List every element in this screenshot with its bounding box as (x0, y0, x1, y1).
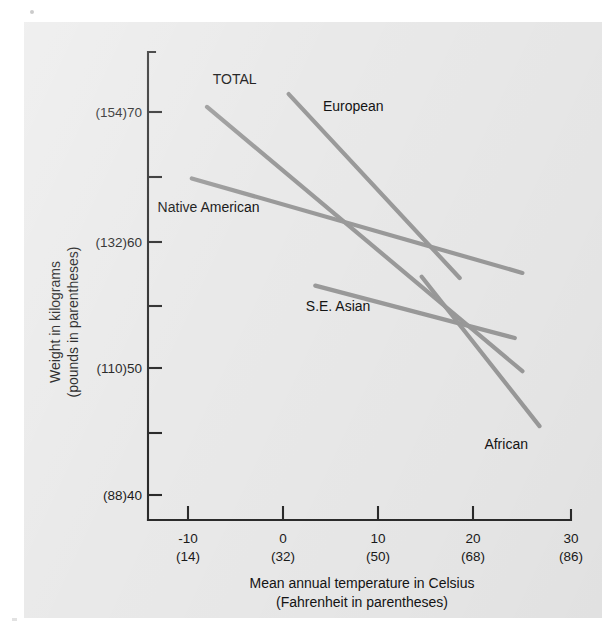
x-tick-label-10: 10 (370, 531, 385, 546)
y-axis-ticks (148, 112, 162, 495)
x-axis-spine (148, 510, 571, 520)
x-tick-sublabel-10: (50) (366, 549, 390, 564)
x-axis-ticks (188, 506, 473, 520)
series-line-european (289, 94, 460, 278)
y-tick-label-50: (110)50 (96, 361, 142, 376)
y-axis-spine (148, 52, 155, 520)
y-axis-title-line2: (pounds in parentheses) (65, 247, 81, 398)
x-tick-sublabel-20: (68) (461, 549, 485, 564)
series-line-native-american (192, 178, 523, 273)
x-tick-label-neg10: -10 (178, 531, 198, 546)
chart-series-lines (192, 94, 540, 426)
x-axis-title-line2: (Fahrenheit in parentheses) (276, 594, 448, 610)
series-label-native-american: Native American (158, 199, 260, 215)
series-line-african (422, 277, 540, 426)
x-tick-label-0: 0 (279, 531, 287, 546)
chart-series-labels: TOTAL European Native American S.E. Asia… (158, 71, 528, 452)
chart-panel: (154)70 (132)60 (110)50 (88)40 -10 (14) … (24, 22, 602, 618)
figure-page: (154)70 (132)60 (110)50 (88)40 -10 (14) … (0, 0, 609, 634)
line-chart: (154)70 (132)60 (110)50 (88)40 -10 (14) … (24, 22, 602, 618)
y-tick-label-70: (154)70 (95, 105, 142, 120)
series-label-se-asian: S.E. Asian (306, 298, 371, 314)
x-tick-label-20: 20 (465, 531, 480, 546)
x-tick-sublabel-0: (32) (271, 549, 295, 564)
y-tick-label-40: (88)40 (103, 488, 142, 503)
series-line-total (207, 107, 522, 371)
series-label-african: African (484, 436, 528, 452)
x-tick-sublabel-30: (86) (559, 549, 583, 564)
series-label-total: TOTAL (213, 71, 257, 87)
y-axis-title: Weight in kilograms (pounds in parenthes… (47, 247, 81, 398)
x-tick-sublabel-neg10: (14) (176, 549, 200, 564)
x-axis-tick-labels: -10 (14) 0 (32) 10 (50) 20 (68) 30 (86) (176, 531, 583, 564)
x-axis-title-line1: Mean annual temperature in Celsius (250, 575, 475, 591)
scan-artifact-smudge (12, 618, 17, 621)
series-label-european: European (323, 98, 384, 114)
y-tick-label-60: (132)60 (95, 235, 142, 250)
x-tick-label-30: 30 (563, 531, 578, 546)
y-axis-tick-labels: (154)70 (132)60 (110)50 (88)40 (95, 105, 142, 503)
x-axis-title: Mean annual temperature in Celsius (Fahr… (250, 575, 475, 610)
scan-artifact-speck (30, 10, 34, 14)
y-axis-title-line1: Weight in kilograms (47, 261, 63, 383)
